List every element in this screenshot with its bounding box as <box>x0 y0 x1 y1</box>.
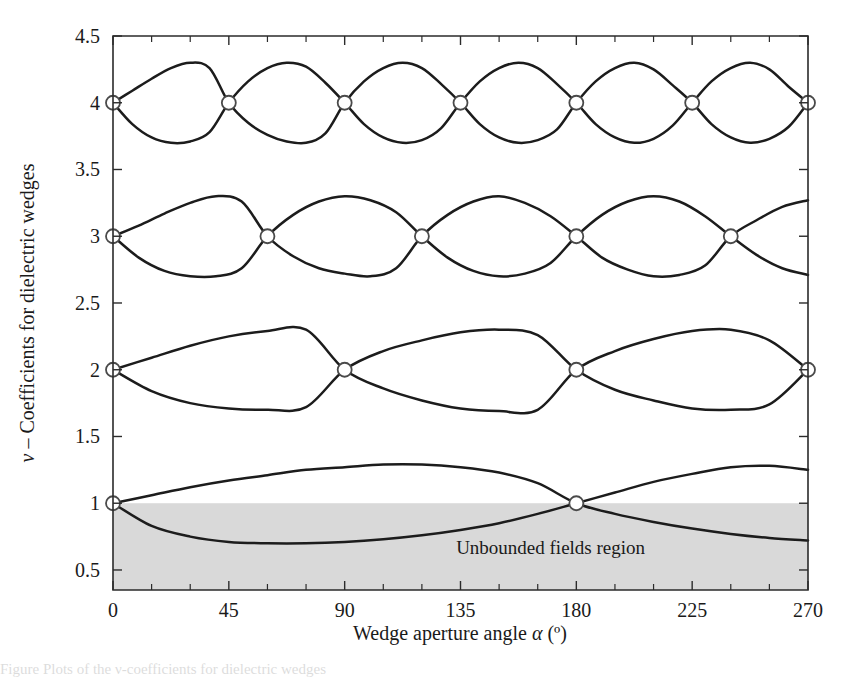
y-axis-title: ν – Coefficients for dielectric wedges <box>16 163 39 462</box>
crossing-marker <box>338 96 352 110</box>
x-axis-title: Wedge aperture angle α (º) <box>353 622 567 645</box>
x-tick-label: 180 <box>561 599 591 621</box>
y-tick-label: 3.5 <box>75 158 100 180</box>
y-tick-label: 2.5 <box>75 292 100 314</box>
y-tick-label: 0.5 <box>75 559 100 581</box>
x-axis-title-prefix: Wedge aperture angle <box>353 622 532 645</box>
x-axis-title-suffix: (º) <box>542 622 567 645</box>
figure-root: 04590135180225270 0.511.522.533.544.5 Un… <box>0 0 855 677</box>
crossing-marker <box>260 229 274 243</box>
crossing-marker <box>454 96 468 110</box>
y-tick-label: 4.5 <box>75 25 100 47</box>
x-tick-label: 0 <box>108 599 118 621</box>
crossing-markers-group <box>106 96 815 510</box>
x-tick-label: 135 <box>446 599 476 621</box>
crossing-marker <box>569 496 583 510</box>
y-tick-label: 4 <box>90 92 100 114</box>
crossing-marker <box>222 96 236 110</box>
y-axis-title-text: – Coefficients for dielectric wedges <box>16 163 39 453</box>
crossing-marker <box>569 96 583 110</box>
crossing-marker <box>569 229 583 243</box>
y-tick-label: 3 <box>90 225 100 247</box>
x-axis-tick-labels: 04590135180225270 <box>108 599 823 621</box>
x-tick-label: 45 <box>219 599 239 621</box>
crossing-marker <box>415 229 429 243</box>
y-tick-label: 1.5 <box>75 425 100 447</box>
page-caption: Figure Plots of the ν-coefficients for d… <box>0 661 855 677</box>
y-tick-label: 2 <box>90 359 100 381</box>
x-tick-label: 90 <box>335 599 355 621</box>
crossing-marker <box>724 229 738 243</box>
curves-group <box>113 63 808 544</box>
y-axis-tick-labels: 0.511.522.533.544.5 <box>75 25 100 581</box>
x-tick-label: 270 <box>793 599 823 621</box>
y-tick-label: 1 <box>90 492 100 514</box>
curve-series-2 <box>113 327 808 413</box>
y-axis-title-symbol-nu: ν <box>16 453 38 462</box>
curve-series-3 <box>113 330 808 411</box>
crossing-marker <box>685 96 699 110</box>
x-tick-label: 225 <box>677 599 707 621</box>
unbounded-fields-region-label: Unbounded fields region <box>456 537 645 558</box>
crossing-marker <box>569 363 583 377</box>
crossing-marker <box>338 363 352 377</box>
nu-coefficients-chart: 04590135180225270 0.511.522.533.544.5 Un… <box>0 0 855 677</box>
x-axis-title-symbol-alpha: α <box>532 622 543 644</box>
caption-text: Figure Plots of the ν-coefficients for d… <box>0 661 326 677</box>
